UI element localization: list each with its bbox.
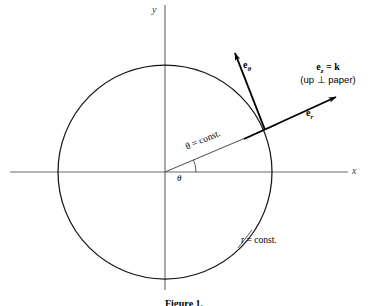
figure-canvas: y x eθ er ez = k (up ⊥ paper) θ = const.… (0, 0, 368, 306)
polar-coordinates-diagram (0, 0, 368, 306)
r-const-label: r = const. (241, 236, 277, 246)
e-r-label: er (306, 108, 313, 121)
theta-angle-label: θ (177, 174, 181, 183)
x-axis-label: x (352, 166, 356, 176)
figure-caption: Figure 1. (0, 298, 368, 306)
e-theta-label: eθ (243, 60, 251, 73)
e-theta-subscript: θ (247, 65, 251, 73)
e-r-subscript: r (310, 113, 313, 121)
e-z-equals-k: = k (323, 61, 339, 72)
y-axis-label: y (152, 5, 156, 15)
theta-angle-arc (194, 160, 197, 172)
e-z-annotation: ez = k (up ⊥ paper) (290, 62, 366, 85)
e-z-note: (up ⊥ paper) (290, 75, 366, 85)
